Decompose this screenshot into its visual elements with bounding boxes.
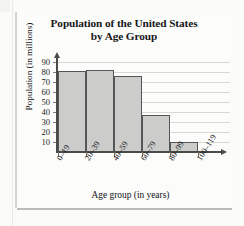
xtick-label-100-119: 100–119 <box>196 133 219 162</box>
bar-0-19 <box>58 71 86 152</box>
plot-area: 90 80 70 60 50 40 30 20 10 0–19 20–39 40… <box>0 0 244 226</box>
bar-40-59 <box>114 76 142 152</box>
y-axis-title: Population (in millions) <box>25 17 34 117</box>
ytick-label-30: 30 <box>28 118 50 127</box>
y-axis-arrow-icon <box>54 52 60 58</box>
x-axis-arrow-icon <box>221 149 227 155</box>
gridline-90 <box>57 62 230 63</box>
bar-20-39 <box>86 70 114 152</box>
y-axis-line <box>56 58 58 153</box>
x-axis-title: Age group (in years) <box>48 190 213 200</box>
chart-screenshot: Population of the United States by Age G… <box>0 0 244 226</box>
ytick-label-10: 10 <box>28 138 50 147</box>
ytick-label-20: 20 <box>28 128 50 137</box>
